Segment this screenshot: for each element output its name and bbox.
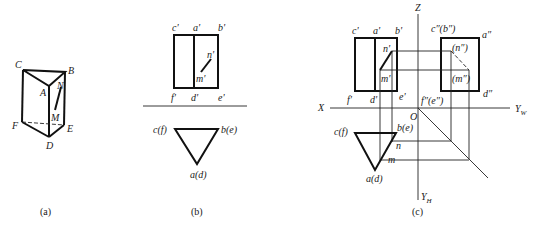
edge-CF bbox=[22, 70, 23, 122]
label-Z: Z bbox=[415, 2, 421, 13]
label-f-prime: f' bbox=[171, 92, 177, 103]
label-f-prime: f' bbox=[347, 94, 353, 105]
caption-b: (b) bbox=[191, 206, 203, 218]
label-c-prime: c' bbox=[172, 22, 179, 33]
label-a-d: a(d) bbox=[190, 169, 207, 181]
label-Yh: YH bbox=[421, 191, 433, 205]
label-b-e: b(e) bbox=[221, 124, 238, 136]
label-m-prime: m' bbox=[196, 73, 206, 84]
label-d-prime: d' bbox=[370, 94, 378, 105]
label-a-prime: a' bbox=[373, 25, 381, 36]
label-m: m bbox=[388, 154, 395, 165]
label-n-prime: n' bbox=[383, 43, 391, 54]
label-E: E bbox=[66, 123, 73, 134]
caption-a: (a) bbox=[40, 206, 51, 218]
label-d-prime: d' bbox=[191, 92, 199, 103]
edge-FD bbox=[22, 122, 49, 137]
label-b-prime: b' bbox=[395, 25, 403, 36]
label-d2: d″ bbox=[483, 88, 493, 99]
label-A: A bbox=[39, 87, 47, 98]
label-c-f: c(f) bbox=[153, 124, 168, 136]
label-F: F bbox=[11, 120, 19, 131]
edge-BE bbox=[64, 72, 65, 125]
label-n: n bbox=[396, 140, 401, 151]
label-N: N bbox=[56, 80, 65, 91]
label-a2: a″ bbox=[482, 29, 492, 40]
side-view-hidden-segment-mn bbox=[451, 51, 469, 70]
top-view-triangle bbox=[175, 129, 218, 164]
label-m2: (m″) bbox=[452, 73, 471, 85]
label-b-prime: b' bbox=[218, 22, 226, 33]
label-m-prime: m' bbox=[381, 73, 391, 84]
caption-c: (c) bbox=[412, 206, 423, 218]
label-C: C bbox=[15, 59, 22, 70]
figure-b-views: c' a' b' n' m' f' d' e' c(f) b(e) a(d) (… bbox=[143, 22, 247, 218]
label-M: M bbox=[50, 112, 60, 123]
label-b-e: b(e) bbox=[397, 122, 414, 134]
label-D: D bbox=[45, 140, 54, 151]
label-n2: (n″) bbox=[452, 42, 468, 54]
projection-diagram: C B A N M F E D (a) c' a' b' n' m' f' d'… bbox=[0, 0, 535, 228]
figure-a-prism: C B A N M F E D (a) bbox=[11, 59, 74, 218]
label-a-d: a(d) bbox=[366, 173, 383, 185]
label-B: B bbox=[68, 65, 74, 76]
label-c-prime: c' bbox=[352, 25, 359, 36]
45-degree-line bbox=[418, 108, 488, 178]
label-c-f: c(f) bbox=[334, 126, 349, 138]
label-e-prime: e' bbox=[399, 91, 406, 102]
label-c2-b2: c″(b″) bbox=[431, 23, 456, 35]
label-X: X bbox=[317, 102, 325, 113]
edge-DE bbox=[49, 125, 64, 137]
label-n-prime: n' bbox=[207, 49, 215, 60]
label-a-prime: a' bbox=[193, 22, 201, 33]
figure-c-three-views: Z X O YW YH c' a' b' n' m' f' d' e' c″(b… bbox=[317, 2, 528, 218]
front-view-segment-mn bbox=[201, 59, 211, 72]
label-O: O bbox=[410, 111, 417, 122]
label-e-prime: e' bbox=[218, 92, 225, 103]
label-Yw: YW bbox=[515, 103, 528, 117]
label-f2-e2: f″(e″) bbox=[421, 95, 444, 107]
